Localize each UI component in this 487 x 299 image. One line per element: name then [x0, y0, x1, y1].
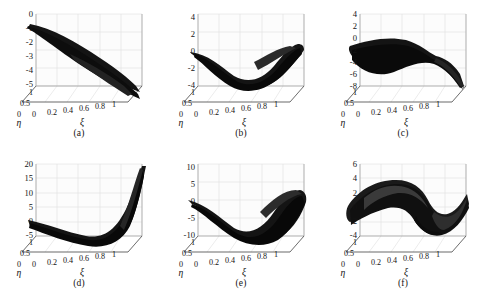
svg-text:1: 1: [353, 88, 357, 97]
svg-text:η: η: [179, 117, 184, 128]
svg-text:ξ: ξ: [242, 116, 247, 128]
svg-text:0.8: 0.8: [257, 102, 267, 111]
svg-text:ξ: ξ: [80, 116, 85, 128]
svg-text:0.8: 0.8: [95, 252, 105, 261]
svg-text:ξ: ξ: [242, 266, 247, 278]
svg-text:0: 0: [356, 110, 360, 119]
svg-text:1: 1: [353, 238, 357, 247]
surface-plot-c: 4 2 0 -2 -4 -6 -8 1 0.5 0 η 0 0.2 0.: [324, 0, 487, 128]
svg-text:0.6: 0.6: [79, 104, 89, 113]
plot-area-e: 10 5 0 -5 -10 1 0.5 0 η 0 0.2 0.4 0.6: [162, 150, 324, 278]
svg-text:η: η: [341, 267, 346, 278]
svg-text:10: 10: [24, 188, 33, 198]
figure-grid: 0 -1 -2 -3 -4 -5 1 0.5 0 η 0 0.2: [0, 0, 487, 299]
svg-text:0: 0: [353, 33, 357, 43]
svg-text:4: 4: [353, 9, 358, 19]
svg-text:-1: -1: [26, 23, 33, 33]
svg-text:0: 0: [194, 260, 198, 269]
svg-text:0.2: 0.2: [47, 108, 57, 117]
surface-plot-e: 10 5 0 -5 -10 1 0.5 0 η 0 0.2 0.4 0.6: [162, 150, 324, 278]
subplot-caption-a: (a): [0, 128, 162, 138]
svg-text:ξ: ξ: [80, 266, 85, 278]
surface-plot-d: 20 15 10 5 0 -5 1 0.5 0 η 0 0.2 0.4: [0, 150, 162, 278]
plot-area-f: 6 4 2 0 -2 -4 1 0.5 0 η 0 0.2 0.4 0.: [324, 150, 486, 278]
svg-text:0: 0: [191, 196, 195, 206]
svg-text:1: 1: [112, 250, 116, 259]
plot-area-c: 4 2 0 -2 -4 -6 -8 1 0.5 0 η 0 0.2 0.: [324, 0, 486, 128]
svg-text:20: 20: [24, 159, 33, 169]
svg-text:-2: -2: [350, 45, 357, 55]
svg-text:-2: -2: [350, 216, 357, 226]
svg-text:1: 1: [274, 250, 278, 259]
svg-text:2: 2: [353, 21, 357, 31]
svg-text:1: 1: [29, 88, 33, 97]
svg-text:4: 4: [191, 12, 196, 22]
svg-text:η: η: [179, 267, 184, 278]
svg-text:0: 0: [32, 260, 36, 269]
svg-text:0.6: 0.6: [79, 254, 89, 263]
subplot-b: 4 2 0 -2 -4 1 0.5 0 η 0 0.2 0.4 0.6: [162, 0, 324, 149]
svg-text:1: 1: [191, 88, 195, 97]
svg-text:η: η: [341, 117, 346, 128]
svg-text:0.2: 0.2: [209, 258, 219, 267]
svg-text:4: 4: [353, 173, 358, 183]
subplot-a: 0 -1 -2 -3 -4 -5 1 0.5 0 η 0 0.2: [0, 0, 162, 149]
svg-text:0.6: 0.6: [403, 254, 413, 263]
subplot-c: 4 2 0 -2 -4 -6 -8 1 0.5 0 η 0 0.2 0.: [324, 0, 486, 149]
svg-text:15: 15: [24, 173, 33, 183]
svg-text:0.4: 0.4: [225, 106, 235, 115]
svg-text:-2: -2: [188, 63, 195, 73]
svg-text:0.8: 0.8: [95, 102, 105, 111]
svg-text:0: 0: [356, 260, 360, 269]
subplot-caption-d: (d): [0, 278, 162, 288]
svg-text:-5: -5: [188, 213, 195, 223]
svg-text:0.5: 0.5: [20, 99, 30, 108]
subplot-caption-c: (c): [324, 128, 486, 138]
svg-text:-4: -4: [26, 65, 34, 75]
subplot-caption-e: (e): [162, 278, 324, 288]
svg-text:1: 1: [436, 100, 440, 109]
svg-text:5: 5: [191, 179, 195, 189]
svg-text:1: 1: [29, 238, 33, 247]
svg-text:0.8: 0.8: [419, 102, 429, 111]
svg-text:ξ: ξ: [404, 116, 409, 128]
svg-text:-2: -2: [26, 37, 33, 47]
svg-text:2: 2: [353, 188, 357, 198]
subplot-caption-b: (b): [162, 128, 324, 138]
svg-text:0.4: 0.4: [63, 106, 73, 115]
svg-text:1: 1: [436, 250, 440, 259]
svg-text:0.5: 0.5: [344, 249, 354, 258]
svg-text:-6: -6: [350, 69, 358, 79]
svg-text:0.4: 0.4: [387, 256, 397, 265]
svg-text:0: 0: [353, 202, 357, 212]
subplot-d: 20 15 10 5 0 -5 1 0.5 0 η 0 0.2 0.4: [0, 150, 162, 299]
plot-area-a: 0 -1 -2 -3 -4 -5 1 0.5 0 η 0 0.2: [0, 0, 162, 128]
svg-text:0: 0: [29, 9, 33, 19]
svg-text:0.6: 0.6: [241, 254, 251, 263]
plot-area-b: 4 2 0 -2 -4 1 0.5 0 η 0 0.2 0.4 0.6: [162, 0, 324, 128]
svg-text:ξ: ξ: [404, 266, 409, 278]
svg-text:0.8: 0.8: [257, 252, 267, 261]
svg-text:0.8: 0.8: [419, 252, 429, 261]
svg-text:η: η: [17, 267, 22, 278]
subplot-e: 10 5 0 -5 -10 1 0.5 0 η 0 0.2 0.4 0.6: [162, 150, 324, 299]
svg-text:-4: -4: [350, 57, 358, 67]
svg-text:0.5: 0.5: [20, 249, 30, 258]
svg-text:0.4: 0.4: [225, 256, 235, 265]
svg-text:0.4: 0.4: [63, 256, 73, 265]
svg-text:0: 0: [29, 216, 33, 226]
svg-text:0.2: 0.2: [209, 108, 219, 117]
svg-text:1: 1: [112, 100, 116, 109]
svg-text:0: 0: [32, 110, 36, 119]
svg-text:0.2: 0.2: [371, 108, 381, 117]
svg-text:6: 6: [353, 159, 358, 169]
svg-text:2: 2: [191, 29, 195, 39]
svg-text:η: η: [17, 117, 22, 128]
svg-text:1: 1: [274, 100, 278, 109]
subplot-caption-f: (f): [324, 278, 486, 288]
subplot-f: 6 4 2 0 -2 -4 1 0.5 0 η 0 0.2 0.4 0.: [324, 150, 486, 299]
svg-text:0.5: 0.5: [182, 249, 192, 258]
svg-text:1: 1: [191, 238, 195, 247]
svg-text:10: 10: [186, 162, 195, 172]
svg-text:0.5: 0.5: [344, 99, 354, 108]
